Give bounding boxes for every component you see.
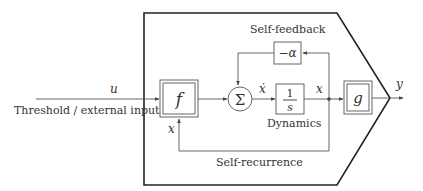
summing-junction: Σ [228,87,252,111]
input-symbol: u [110,82,118,96]
recurrence-state-symbol: x [168,122,175,136]
svg-text:Σ: Σ [235,91,246,109]
svg-text:−α: −α [278,46,296,60]
dynamics-label: Dynamics [267,117,322,130]
block-diagram: u Threshold / external inputs f Σ ẋ 1 s … [0,0,423,191]
f-block: f [160,80,198,117]
integrator-block: 1 s [276,84,304,114]
svg-text:g: g [353,89,363,107]
g-block: g [344,81,372,114]
input-label: Threshold / external inputs [14,104,166,117]
self-recurrence-label: Self-recurrence [216,156,303,169]
svg-text:s: s [287,101,293,114]
xdot-symbol: ẋ [259,82,266,96]
svg-text:1: 1 [287,87,294,100]
feedback-path-out [238,53,274,85]
self-feedback-label: Self-feedback [250,23,326,36]
feedback-gain-block: −α [274,42,301,64]
state-symbol: x [316,82,323,96]
output-symbol: y [395,77,403,91]
